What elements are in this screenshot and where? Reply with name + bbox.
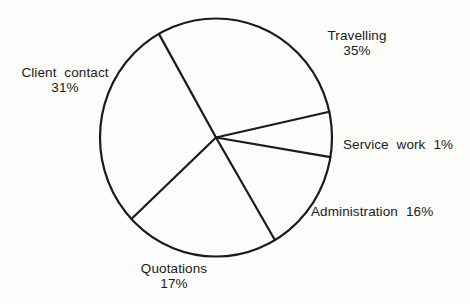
slice-label-percent: 17% [141,277,207,292]
pie-slice-boundary [216,112,329,138]
pie-chart-figure: Travelling 35% Client contact 31% Servic… [0,0,470,304]
slice-label-percent: 31% [21,81,108,96]
slice-label-quotations: Quotations 17% [141,262,207,291]
slice-label-percent: 16% [406,204,433,219]
pie-slice-boundary [216,138,330,158]
pie-slice-boundary [131,138,216,220]
slice-label-travelling: Travelling 35% [327,29,386,58]
pie-slice-boundary [216,138,275,241]
slice-label-text: Travelling [327,29,386,44]
slice-label-text: Client contact [21,66,108,81]
slice-label-client-contact: Client contact 31% [21,66,108,95]
slice-label-text: Service work [343,137,425,152]
slice-label-text: Quotations [141,262,207,277]
slice-label-percent: 1% [433,137,453,152]
slice-label-service-work: Service work1% [343,138,453,153]
slice-label-administration: Administration16% [311,205,433,220]
slice-label-percent: 35% [327,44,386,59]
pie-slice-boundary [159,34,216,138]
slice-label-text: Administration [311,204,398,219]
